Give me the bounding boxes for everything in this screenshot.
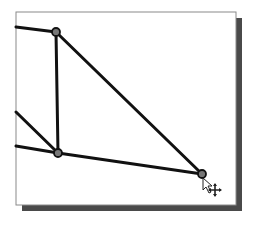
sketch-point-c[interactable] [198,170,206,178]
sketch-point-b[interactable] [54,149,62,157]
sketch-viewport[interactable] [0,0,255,227]
sketch-canvas[interactable] [0,0,255,227]
sketch-line[interactable] [56,32,58,153]
sketch-point-a[interactable] [52,28,60,36]
